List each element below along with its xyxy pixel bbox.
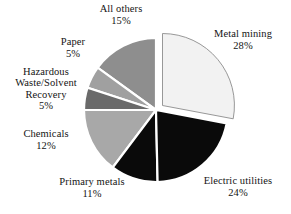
pie-slice-electric-utilities[interactable] [156,110,227,182]
slice-label-all-others-percent: 15% [79,15,163,27]
slice-label-paper: Paper 5% [42,36,104,59]
slice-label-hazardous-line2: Waste/Solvent [2,77,90,88]
pie-slices [84,34,234,183]
slice-label-all-others: All others 15% [79,3,163,26]
slice-label-hazardous-waste-solvent-recovery: Hazardous Waste/Solvent Recovery 5% [2,66,90,112]
slice-label-electric-utilities-percent: 24% [190,187,286,199]
slice-label-metal-mining-name: Metal mining [199,28,287,40]
slice-label-metal-mining-percent: 28% [199,40,287,52]
slice-label-paper-name: Paper [42,36,104,48]
slice-label-chemicals: Chemicals 12% [8,128,84,151]
slice-label-paper-percent: 5% [42,48,104,60]
pie-chart-figure: All others 15% Metal mining 28% Paper 5%… [0,0,291,214]
slice-label-hazardous-line3: Recovery [2,89,90,100]
slice-label-all-others-name: All others [79,3,163,15]
slice-label-hazardous-line1: Hazardous [2,66,90,77]
slice-label-primary-metals: Primary metals 11% [44,176,140,199]
slice-label-chemicals-percent: 12% [8,140,84,152]
slice-label-electric-utilities: Electric utilities 24% [190,175,286,198]
slice-label-primary-metals-name: Primary metals [44,176,140,188]
slice-label-electric-utilities-name: Electric utilities [190,175,286,187]
slice-label-metal-mining: Metal mining 28% [199,28,287,51]
slice-label-primary-metals-percent: 11% [44,188,140,200]
slice-label-hazardous-percent: 5% [2,100,90,111]
slice-label-chemicals-name: Chemicals [8,128,84,140]
